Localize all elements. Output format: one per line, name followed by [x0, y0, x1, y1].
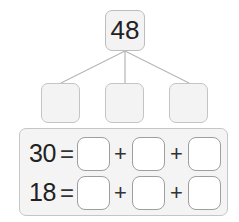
part-box-3[interactable] — [169, 83, 208, 123]
part-box-1[interactable] — [41, 83, 80, 123]
part-box-2[interactable] — [105, 83, 144, 123]
plus-sign: + — [170, 141, 183, 167]
answer-box[interactable] — [132, 176, 165, 210]
plus-sign: + — [170, 180, 183, 206]
answer-box[interactable] — [188, 137, 221, 171]
equation-value: 30 — [29, 139, 56, 168]
plus-sign: + — [114, 180, 127, 206]
answer-box[interactable] — [77, 176, 110, 210]
equals-sign: = — [60, 179, 74, 207]
answer-box[interactable] — [132, 137, 165, 171]
equals-sign: = — [60, 140, 74, 168]
answer-box[interactable] — [77, 137, 110, 171]
total-box: 48 — [105, 10, 145, 51]
plus-sign: + — [114, 141, 127, 167]
equation-value: 18 — [29, 178, 56, 207]
answer-box[interactable] — [188, 176, 221, 210]
total-value: 48 — [111, 15, 140, 46]
